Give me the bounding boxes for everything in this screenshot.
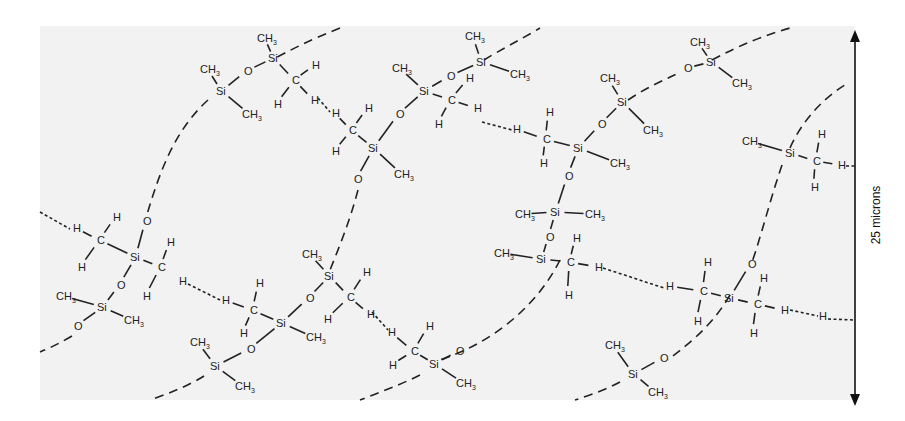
- atom-label-o: O: [598, 118, 607, 130]
- atom-label-o: O: [396, 108, 405, 120]
- atom-label-h: H: [256, 277, 264, 289]
- atom-label-h: H: [565, 289, 573, 301]
- atom-label-c: C: [250, 304, 258, 316]
- atom-label-h: H: [694, 315, 702, 327]
- atom-label-h: H: [750, 327, 758, 339]
- atom-label-h: H: [435, 118, 443, 130]
- atom-label-h: H: [367, 308, 375, 320]
- atom-label-si: Si: [276, 317, 286, 329]
- atom-label-h: H: [363, 266, 371, 278]
- atom-label-o: O: [244, 65, 253, 77]
- atom-label-si: Si: [573, 142, 583, 154]
- atom-label-c: C: [349, 124, 357, 136]
- atom-label-h: H: [388, 326, 396, 338]
- atom-label-c: C: [292, 74, 300, 86]
- atom-label-h: H: [389, 359, 397, 371]
- atom-label-h: H: [819, 310, 827, 322]
- atom-label-h: H: [78, 261, 86, 273]
- atom-label-c: C: [700, 285, 708, 297]
- atom-label-c: C: [448, 94, 456, 106]
- atom-label-h: H: [595, 261, 603, 273]
- atom-label-si: Si: [324, 270, 334, 282]
- atom-label-o: O: [354, 173, 363, 185]
- atom-label-h: H: [474, 102, 482, 114]
- atom-label-h: H: [222, 294, 230, 306]
- atom-label-o: O: [306, 292, 315, 304]
- atom-label-h: H: [704, 256, 712, 268]
- atom-label-c: C: [813, 155, 821, 167]
- covalent-bond: [543, 147, 544, 156]
- covalent-bond: [550, 260, 560, 261]
- atom-label-h: H: [179, 275, 187, 287]
- atom-label-h: H: [143, 290, 151, 302]
- atom-label-h: H: [240, 327, 248, 339]
- atom-label-h: H: [540, 157, 548, 169]
- covalent-bond: [565, 213, 584, 214]
- atom-label-h: H: [274, 98, 282, 110]
- atom-label-c: C: [158, 261, 166, 273]
- atom-label-h: H: [73, 222, 81, 234]
- atom-label-o: O: [117, 279, 126, 291]
- atom-label-c: C: [754, 298, 762, 310]
- atom-label-si: Si: [724, 292, 734, 304]
- atom-label-si: Si: [210, 360, 220, 372]
- atom-label-si: Si: [130, 251, 140, 263]
- scale-bar-label: 25 microns: [869, 186, 883, 245]
- covalent-bond: [568, 271, 569, 286]
- atom-label-si: Si: [550, 206, 560, 218]
- atom-label-o: O: [684, 62, 693, 74]
- atom-label-si: Si: [268, 52, 278, 64]
- atom-label-si: Si: [785, 147, 795, 159]
- atom-label-si: Si: [429, 358, 439, 370]
- diagram-canvas: CH3SiOCH3SiCH3HCHHHHCHSiCH3OCH3SiOOCH3Si…: [0, 0, 905, 421]
- atom-label-h: H: [760, 272, 768, 284]
- atom-label-h: H: [113, 211, 121, 223]
- atom-label-si: Si: [536, 253, 546, 265]
- atom-label-si: Si: [97, 301, 107, 313]
- atom-label-si: Si: [419, 85, 429, 97]
- atom-label-h: H: [365, 102, 373, 114]
- atom-label-h: H: [513, 123, 521, 135]
- atom-label-h: H: [811, 181, 819, 193]
- atom-label-h: H: [666, 280, 674, 292]
- atom-label-h: H: [332, 145, 340, 157]
- atom-label-c: C: [543, 133, 551, 145]
- atom-label-h: H: [311, 94, 319, 106]
- atom-label-c: C: [411, 345, 419, 357]
- atom-label-h: H: [818, 128, 826, 140]
- atom-label-h: H: [426, 320, 434, 332]
- atom-label-h: H: [312, 59, 320, 71]
- atom-label-c: C: [97, 234, 105, 246]
- atom-label-si: Si: [476, 56, 486, 68]
- atom-label-o: O: [748, 258, 757, 270]
- atom-label-o: O: [74, 320, 83, 332]
- atom-label-si: Si: [216, 85, 226, 97]
- atom-label-h: H: [466, 72, 474, 84]
- atom-label-o: O: [456, 345, 465, 357]
- atom-label-si: Si: [617, 96, 627, 108]
- atom-label-o: O: [546, 231, 555, 243]
- atom-label-o: O: [565, 170, 574, 182]
- atom-label-si: Si: [628, 368, 638, 380]
- covalent-bond: [532, 213, 547, 214]
- atom-label-o: O: [447, 70, 456, 82]
- atom-label-o: O: [247, 343, 256, 355]
- atom-label-c: C: [347, 291, 355, 303]
- atom-label-h: H: [167, 236, 175, 248]
- atom-label-h: H: [781, 304, 789, 316]
- atom-label-h: H: [332, 107, 340, 119]
- atom-label-h: H: [546, 106, 554, 118]
- covalent-bond: [546, 121, 547, 131]
- atom-label-h: H: [573, 232, 581, 244]
- covalent-bond: [814, 169, 815, 178]
- atom-label-si: Si: [706, 56, 716, 68]
- atom-label-o: O: [143, 215, 152, 227]
- atom-label-c: C: [567, 256, 575, 268]
- atom-label-h: H: [324, 313, 332, 325]
- scale-bar: 25 microns: [850, 30, 883, 406]
- atom-label-si: Si: [368, 142, 378, 154]
- atom-label-h: H: [838, 159, 846, 171]
- atom-label-o: O: [660, 352, 669, 364]
- silicone-network-diagram: CH3SiOCH3SiCH3HCHHHHCHSiCH3OCH3SiOOCH3Si…: [0, 0, 905, 421]
